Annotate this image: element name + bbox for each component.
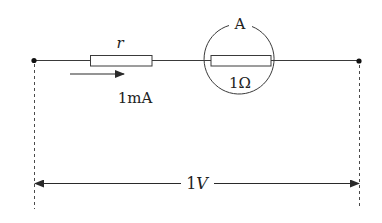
resistor-r-label: r bbox=[116, 34, 124, 52]
ammeter-internal-resistor bbox=[211, 56, 271, 67]
ammeter-label: A bbox=[234, 15, 246, 33]
resistor-r bbox=[91, 56, 153, 67]
current-label: 1mA bbox=[118, 89, 153, 107]
right-node-dot bbox=[356, 58, 361, 63]
circuit-diagram: r 1mA A 1Ω 1V bbox=[0, 0, 382, 223]
voltage-label-text: 1 bbox=[186, 174, 196, 193]
voltage-unit: V bbox=[196, 174, 209, 193]
voltage-label: 1V bbox=[186, 174, 209, 193]
ammeter-resistance-label: 1Ω bbox=[229, 74, 251, 92]
left-node-dot bbox=[31, 58, 36, 63]
